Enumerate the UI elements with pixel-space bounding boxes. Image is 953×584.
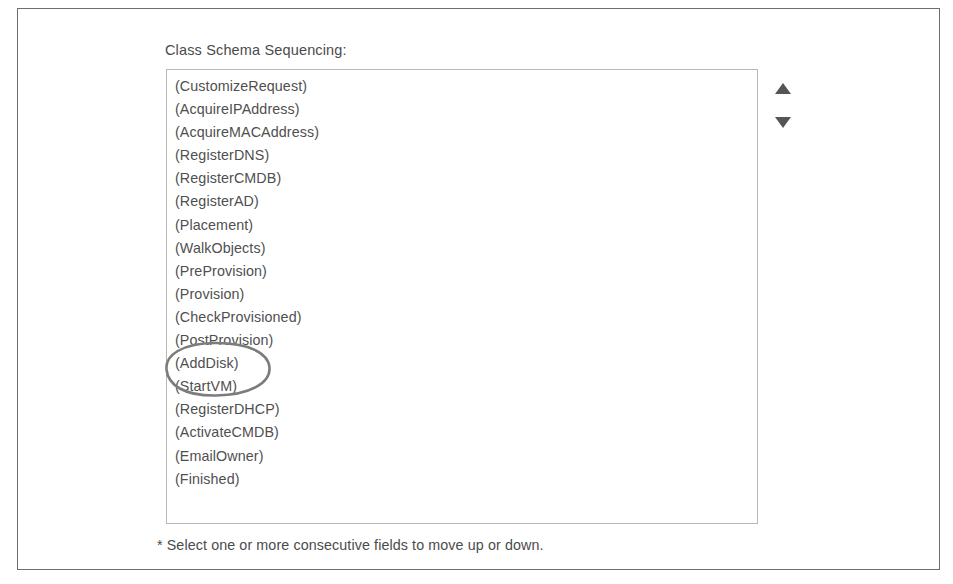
page-title: Class Schema Sequencing:: [165, 42, 347, 58]
list-item[interactable]: (WalkObjects): [167, 237, 757, 260]
class-schema-sequencing-listbox[interactable]: (CustomizeRequest)(AcquireIPAddress)(Acq…: [166, 69, 758, 524]
list-item[interactable]: (StartVM): [167, 375, 757, 398]
list-item[interactable]: (AddDisk): [167, 352, 757, 375]
listbox-items[interactable]: (CustomizeRequest)(AcquireIPAddress)(Acq…: [167, 70, 757, 491]
list-item[interactable]: (AcquireIPAddress): [167, 98, 757, 121]
move-down-arrow-icon[interactable]: [775, 117, 791, 128]
list-item[interactable]: (EmailOwner): [167, 445, 757, 468]
list-item[interactable]: (CheckProvisioned): [167, 306, 757, 329]
list-item[interactable]: (RegisterDNS): [167, 144, 757, 167]
list-item[interactable]: (Placement): [167, 214, 757, 237]
helper-note: * Select one or more consecutive fields …: [157, 537, 544, 553]
list-item[interactable]: (Finished): [167, 468, 757, 491]
list-item[interactable]: (PreProvision): [167, 260, 757, 283]
list-item[interactable]: (RegisterAD): [167, 190, 757, 213]
move-up-arrow-icon[interactable]: [775, 83, 791, 94]
list-item[interactable]: (ActivateCMDB): [167, 421, 757, 444]
list-item[interactable]: (Provision): [167, 283, 757, 306]
list-item[interactable]: (AcquireMACAddress): [167, 121, 757, 144]
list-item[interactable]: (RegisterDHCP): [167, 398, 757, 421]
reorder-spinner[interactable]: [775, 79, 795, 135]
list-item[interactable]: (RegisterCMDB): [167, 167, 757, 190]
list-item[interactable]: (PostProvision): [167, 329, 757, 352]
list-item[interactable]: (CustomizeRequest): [167, 75, 757, 98]
scanned-page-frame: Class Schema Sequencing: (CustomizeReque…: [17, 8, 940, 570]
